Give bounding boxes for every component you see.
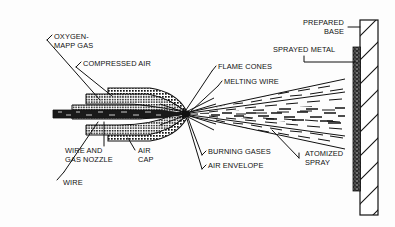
label-oxygen-mapp-gas: OXYGEN- MAPP GAS	[54, 33, 93, 50]
leader-melting-wire-hook	[218, 81, 222, 86]
leader-flame-cones-hook	[212, 66, 216, 71]
leader-oxygen-mapp-gas-hook	[47, 35, 52, 40]
leader-compressed-air	[76, 67, 112, 96]
wire	[53, 110, 186, 118]
label-wire: WIRE	[63, 179, 83, 188]
figure-canvas: OXYGEN- MAPP GAS COMPRESSED AIR FLAME CO…	[0, 0, 395, 227]
label-wire-and-gas-nozzle: WIRE AND GAS NOZZLE	[65, 147, 113, 164]
leader-air-envelope	[187, 119, 202, 169]
label-prepared-base: PREPARED BASE	[286, 19, 344, 36]
spray-envelope-lines	[190, 79, 345, 149]
melting-wire-tip	[182, 111, 191, 118]
leader-compressed-air-hook	[76, 62, 81, 67]
label-flame-cones: FLAME CONES	[218, 63, 272, 72]
label-burning-gases: BURNING GASES	[208, 148, 271, 157]
label-air-cap: AIR CAP	[138, 147, 154, 164]
leader-sprayed-metal	[304, 56, 355, 62]
label-atomized-spray: ATOMIZED SPRAY	[305, 150, 343, 167]
label-compressed-air: COMPRESSED AIR	[83, 60, 151, 69]
sprayed-metal-coating	[353, 47, 361, 191]
leader-burning-gases	[188, 118, 202, 155]
atomized-spray-core	[190, 106, 350, 123]
leader-burning-gases-hook	[202, 151, 206, 155]
label-melting-wire: MELTING WIRE	[224, 78, 279, 87]
label-sprayed-metal: SPRAYED METAL	[273, 46, 335, 55]
label-air-envelope: AIR ENVELOPE	[208, 162, 263, 171]
leader-air-envelope-hook	[202, 165, 206, 169]
